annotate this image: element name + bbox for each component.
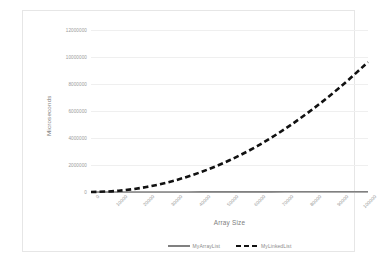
plot-area [91, 30, 368, 192]
chart-container: Microseconds 020000004000000600000080000… [22, 10, 355, 252]
chart-legend: MyArrayList MyLinkedList [91, 243, 368, 249]
y-axis-tick-label: 6000000 [68, 109, 87, 114]
legend-swatch-dashed-icon [236, 245, 258, 247]
y-axis-tick-label: 12000000 [66, 28, 87, 33]
x-axis-tick-label: 100000 [362, 194, 377, 209]
x-axis-tick-label: 70000 [281, 194, 294, 207]
x-axis-title: Array Size [91, 219, 368, 226]
x-axis-tick-label: 50000 [226, 194, 239, 207]
y-axis-tick-labels: 0200000040000006000000800000010000000120… [43, 30, 87, 192]
legend-label: MyArrayList [193, 243, 221, 249]
y-axis-tick-label: 8000000 [68, 82, 87, 87]
x-axis-tick-label: 60000 [253, 194, 266, 207]
legend-label: MyLinkedList [261, 243, 291, 249]
x-axis-tick-label: 0 [95, 194, 101, 200]
x-axis-tick-label: 80000 [309, 194, 322, 207]
x-axis-tick-label: 30000 [170, 194, 183, 207]
series-layer [91, 30, 368, 192]
y-axis-tick-label: 4000000 [68, 136, 87, 141]
x-axis-tick-label: 20000 [143, 194, 156, 207]
y-axis-tick-label: 2000000 [68, 163, 87, 168]
x-axis-tick-label: 10000 [115, 194, 128, 207]
legend-swatch-solid-icon [168, 245, 190, 247]
legend-item-mylinkedlist[interactable]: MyLinkedList [236, 243, 291, 249]
x-axis-tick-label: 40000 [198, 194, 211, 207]
y-axis-tick-label: 0 [84, 190, 87, 195]
series-line-mylinkedlist [91, 62, 368, 192]
x-axis-tick-label: 90000 [337, 194, 350, 207]
y-axis-tick-label: 10000000 [66, 55, 87, 60]
legend-item-myarraylist[interactable]: MyArrayList [168, 243, 221, 249]
